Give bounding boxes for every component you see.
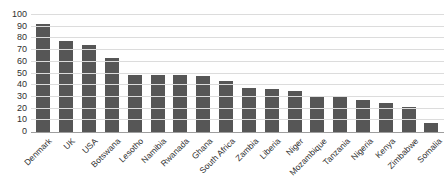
y-axis-tick-label: 90 — [0, 21, 27, 32]
y-axis-tick-label: 30 — [0, 91, 27, 102]
bar-slot — [283, 15, 306, 132]
y-axis-tick-label: 20 — [0, 103, 27, 114]
bar-slot — [32, 15, 55, 132]
x-axis-label: Nigeria — [349, 136, 375, 162]
bar-slot — [374, 15, 397, 132]
bar — [356, 100, 370, 132]
bar-slot — [215, 15, 238, 132]
bar-slot — [237, 15, 260, 132]
gridline — [31, 108, 444, 109]
gridline — [31, 61, 444, 62]
bar — [288, 91, 302, 132]
x-label-slot: Rwanada — [169, 133, 192, 194]
gridline — [31, 96, 444, 97]
x-axis-label: Denmark — [22, 136, 53, 167]
y-axis-tick-label: 0 — [0, 126, 27, 137]
bar — [310, 96, 324, 132]
bar-slot — [260, 15, 283, 132]
bar-slot — [192, 15, 215, 132]
bar — [59, 41, 73, 132]
gridline — [31, 73, 444, 74]
y-axis-tick-label: 80 — [0, 32, 27, 43]
bar-slot — [329, 15, 352, 132]
gridline — [31, 37, 444, 38]
gridline — [31, 26, 444, 27]
y-axis-tick-label: 50 — [0, 68, 27, 79]
x-label-slot: UK — [54, 133, 77, 194]
bar-slot — [397, 15, 420, 132]
bar-chart: 0102030405060708090100 DenmarkUKUSABotsw… — [0, 0, 445, 194]
x-label-slot: Tanzania — [329, 133, 352, 194]
bar-slot — [306, 15, 329, 132]
bar — [242, 88, 256, 132]
y-axis-tick-label: 100 — [0, 9, 27, 20]
plot-area — [31, 15, 444, 133]
x-label-slot: Lesotho — [123, 133, 146, 194]
x-label-slot: Denmark — [31, 133, 54, 194]
y-axis-tick-label: 40 — [0, 79, 27, 90]
x-label-slot: South Africa — [215, 133, 238, 194]
bar-slot — [352, 15, 375, 132]
x-axis-labels: DenmarkUKUSABotswanaLesothoNamibiaRwanad… — [31, 133, 444, 194]
bar-slot — [123, 15, 146, 132]
gridline — [31, 49, 444, 50]
bar-slot — [146, 15, 169, 132]
y-axis-tick-label: 60 — [0, 56, 27, 67]
x-label-slot: Botswana — [100, 133, 123, 194]
gridline — [31, 14, 444, 15]
bar-slot — [169, 15, 192, 132]
y-axis-tick-label: 10 — [0, 114, 27, 125]
x-axis-label: Liberia — [258, 136, 283, 161]
bar-slot — [55, 15, 78, 132]
x-axis-label: USA — [80, 136, 99, 155]
x-axis-label: UK — [61, 136, 76, 151]
bar — [333, 96, 347, 132]
x-label-slot: Zimbabwe — [398, 133, 421, 194]
bar-slot — [420, 15, 443, 132]
x-label-slot: Somalia — [421, 133, 444, 194]
gridline — [31, 84, 444, 85]
bar — [424, 123, 438, 132]
bars-row — [32, 15, 443, 132]
bar — [36, 24, 50, 132]
x-label-slot: Nigeria — [352, 133, 375, 194]
bar-slot — [78, 15, 101, 132]
y-axis: 0102030405060708090100 — [0, 15, 27, 132]
bar — [219, 81, 233, 132]
x-label-slot: Liberia — [260, 133, 283, 194]
x-axis-label: Zambia — [233, 136, 260, 163]
bar-slot — [100, 15, 123, 132]
y-axis-tick-label: 70 — [0, 44, 27, 55]
x-label-slot: Zambia — [237, 133, 260, 194]
gridline — [31, 119, 444, 120]
